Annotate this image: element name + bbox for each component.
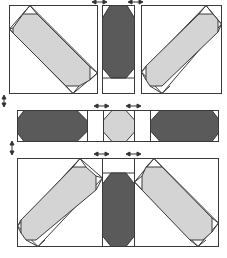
press-arrow-icon [126,104,141,108]
sashing-row [18,111,219,142]
diagonal-unit-top-right [142,6,222,94]
quilt-assembly-diagram [0,0,227,258]
sashing-strip-top [103,6,135,94]
diagonal-unit-top-left [10,6,98,94]
press-arrow-icon [128,0,143,4]
sashing-strip-bottom [103,159,135,247]
press-arrow-icon [94,152,109,156]
diagonal-unit-bottom-left [18,159,103,247]
press-arrow-icon [94,104,109,108]
press-arrow-icon [92,0,107,4]
diagonal-unit-bottom-right [135,159,219,247]
seam-arrow-icon [10,141,14,155]
press-arrow-icon [126,152,141,156]
seam-arrow-icon [2,95,6,107]
